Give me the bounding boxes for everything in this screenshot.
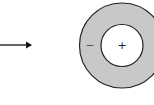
arrow-icon bbox=[0, 42, 32, 49]
diagram-canvas: − + bbox=[0, 0, 154, 105]
negative-sign-label: − bbox=[85, 40, 94, 51]
positive-sign-label: + bbox=[117, 40, 126, 51]
diagram-svg bbox=[0, 0, 154, 105]
